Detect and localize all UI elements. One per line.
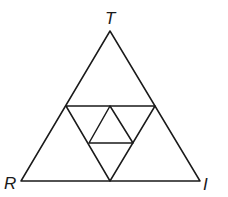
triangle-diagram: T R I	[0, 0, 228, 197]
inner-triangle	[89, 106, 133, 143]
label-r: R	[4, 174, 16, 193]
label-i: I	[203, 175, 208, 194]
label-t: T	[105, 9, 117, 28]
